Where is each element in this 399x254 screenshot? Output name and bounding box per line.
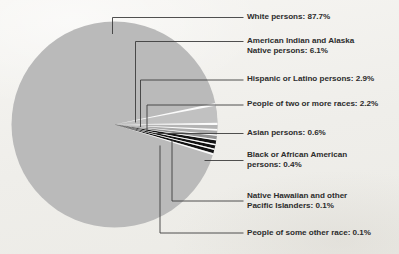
callout-label-some-other-race: People of some other race: 0.1% (247, 228, 371, 238)
callout-label-black-african-american: Black or African American persons: 0.4% (247, 150, 347, 171)
callout-label-two-or-more-races: People of two or more races: 2.2% (247, 99, 378, 109)
pie-slices (12, 22, 231, 228)
callout-label-asian: Asian persons: 0.6% (247, 128, 326, 138)
callout-label-american-indian: American Indian and Alaska Native person… (247, 36, 354, 57)
callout-label-white-persons: White persons: 87.7% (247, 12, 330, 22)
callout-label-hispanic: Hispanic or Latino persons: 2.9% (247, 74, 374, 84)
pie-chart-figure: White persons: 87.7% American Indian and… (0, 0, 399, 254)
callout-label-native-hawaiian: Native Hawaiian and other Pacific Island… (247, 191, 347, 212)
